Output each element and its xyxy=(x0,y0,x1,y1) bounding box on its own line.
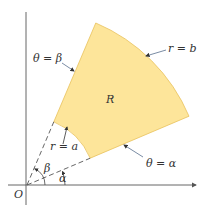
label-theta-alpha: θ = α xyxy=(146,157,177,170)
label-alpha: α xyxy=(59,172,67,185)
leader-r-b xyxy=(146,50,166,56)
leader-theta-alpha xyxy=(124,145,143,157)
leader-theta-beta xyxy=(62,63,74,71)
label-region: R xyxy=(105,93,114,106)
label-r-b: r = b xyxy=(168,42,197,55)
label-origin: O xyxy=(14,188,23,201)
label-beta: β xyxy=(43,162,50,175)
polar-region-diagram: θ = β r = b R r = a θ = α β α O xyxy=(0,0,210,213)
label-theta-beta: θ = β xyxy=(33,52,62,65)
label-r-a: r = a xyxy=(50,140,78,153)
